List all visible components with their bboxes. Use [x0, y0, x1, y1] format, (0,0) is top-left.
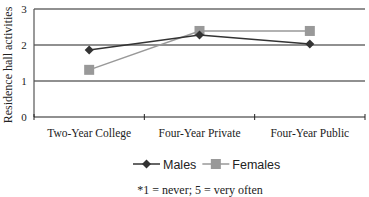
diamond-marker-icon [142, 160, 151, 169]
x-axis-labels: Two-Year CollegeFour-Year PrivateFour-Ye… [47, 127, 349, 140]
diamond-marker-icon [85, 46, 94, 55]
series-males [85, 30, 315, 54]
square-marker-icon [84, 65, 94, 75]
y-tick-label: 2 [21, 39, 27, 51]
footnote: *1 = never; 5 = very often [137, 183, 263, 197]
x-tick-label: Four-Year Public [270, 127, 349, 139]
y-axis-label: Residence hall activities [1, 6, 15, 123]
line-chart: Residence hall activities 0123 Two-Year … [0, 0, 369, 197]
y-axis-ticks: 0123 [21, 3, 27, 123]
x-tick-label: Four-Year Private [159, 127, 241, 139]
legend-item-males: Males [133, 158, 196, 172]
legend-label: Females [232, 158, 280, 172]
x-axis [34, 114, 365, 120]
legend-label: Males [163, 158, 196, 172]
y-tick-label: 1 [21, 75, 27, 87]
gridlines [34, 9, 365, 117]
legend-item-females: Females [202, 158, 280, 172]
legend: MalesFemales [133, 158, 280, 172]
square-marker-icon [305, 26, 315, 36]
x-tick-label: Two-Year College [47, 127, 131, 140]
data-series [84, 26, 315, 75]
y-tick-label: 3 [21, 3, 27, 15]
square-marker-icon [211, 159, 221, 169]
y-tick-label: 0 [21, 111, 27, 123]
diamond-marker-icon [305, 39, 314, 48]
